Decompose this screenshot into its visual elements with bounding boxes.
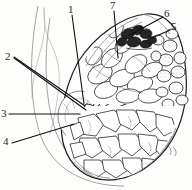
- anatomy-figure: 1 2 3 4 5 6 7: [0, 0, 192, 190]
- callout-label-1: 1: [68, 4, 74, 15]
- callout-label-6: 6: [164, 8, 170, 19]
- callout-label-7: 7: [110, 0, 116, 11]
- callout-label-5: 5: [171, 21, 177, 32]
- callout-label-4: 4: [3, 136, 9, 147]
- callout-label-3: 3: [1, 108, 7, 119]
- torso-contour: [32, 8, 59, 134]
- signature-mark: [168, 146, 176, 156]
- anatomy-illustration: [0, 0, 192, 190]
- callout-label-2: 2: [5, 51, 11, 62]
